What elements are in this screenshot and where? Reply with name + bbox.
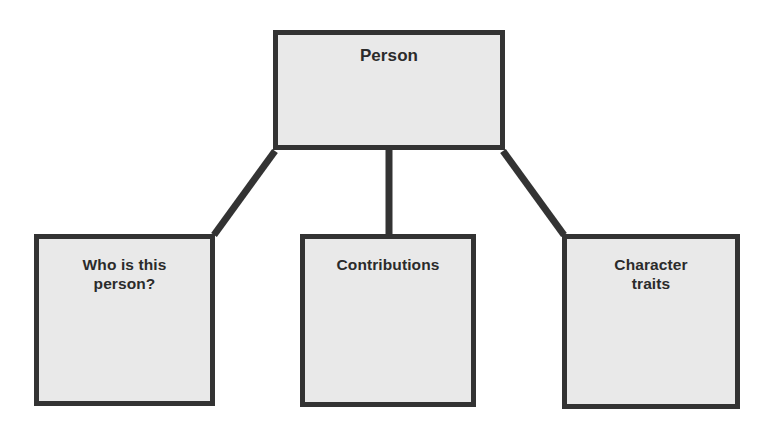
node-character-traits[interactable]: Character traits	[562, 234, 740, 409]
connector-person-to-who	[214, 151, 275, 235]
node-who-is-this-person-label: Who is this person?	[39, 255, 210, 294]
node-contributions[interactable]: Contributions	[300, 234, 476, 407]
connector-person-to-character	[503, 151, 564, 235]
node-character-traits-label: Character traits	[567, 255, 735, 294]
node-person-label: Person	[278, 45, 500, 66]
node-who-is-this-person[interactable]: Who is this person?	[34, 234, 215, 406]
node-contributions-label: Contributions	[305, 255, 471, 274]
node-person[interactable]: Person	[273, 30, 505, 150]
diagram-canvas: Person Who is this person? Contributions…	[0, 0, 770, 438]
